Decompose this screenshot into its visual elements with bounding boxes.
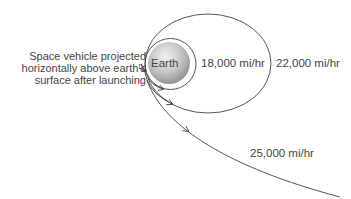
description-line: horizontally above earth's: [6, 62, 146, 74]
escape-trajectory-speed-label: 25,000 mi/hr: [250, 147, 314, 159]
description-line: Space vehicle projected: [6, 50, 146, 62]
earth-label: Earth: [151, 57, 179, 69]
escape-trajectory-arrow: [168, 117, 188, 131]
vehicle-description: Space vehicle projected horizontally abo…: [6, 50, 146, 86]
orbit-diagram-canvas: [0, 0, 351, 199]
description-line: surface after launching: [6, 74, 146, 86]
escape-trajectory-path: [145, 72, 340, 197]
elliptical-orbit-speed-label: 22,000 mi/hr: [276, 57, 340, 69]
circular-orbit-speed-label: 18,000 mi/hr: [201, 57, 265, 69]
